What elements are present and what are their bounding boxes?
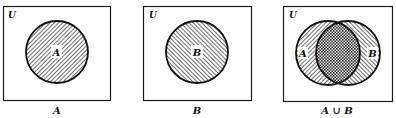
set-b-label: B [367, 48, 376, 59]
panel-set-b: U B B [144, 7, 252, 117]
panel-set-a: U A A [4, 7, 111, 117]
venn-diagram-canvas: U A A U B B U A B A ∪ B [0, 0, 396, 118]
set-a-label: A [298, 48, 307, 59]
panel-caption: B [192, 105, 201, 116]
panel-union: U A B A ∪ B [284, 7, 393, 117]
universe-label: U [149, 10, 158, 20]
universe-label: U [289, 10, 298, 20]
set-b-label: B [192, 47, 201, 58]
universe-label: U [8, 10, 17, 20]
panel-caption: A ∪ B [320, 105, 353, 116]
set-a-label: A [52, 47, 61, 58]
panel-caption: A [52, 105, 61, 116]
